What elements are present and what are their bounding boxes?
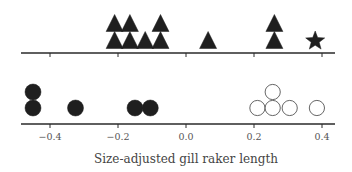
top-panel <box>21 15 335 58</box>
open-circle-marker <box>265 84 280 99</box>
triangle-marker <box>152 32 169 49</box>
x-tick-label: 0.4 <box>314 131 329 142</box>
filled-circle-marker <box>25 84 41 100</box>
triangle-marker <box>121 32 138 49</box>
x-axis-tick-labels: −0.4−0.20.00.20.4 <box>38 131 329 142</box>
top-panel-markers <box>106 15 325 50</box>
filled-circle-marker <box>68 100 84 116</box>
filled-circle-marker <box>142 100 158 116</box>
triangle-marker <box>106 15 123 32</box>
x-tick-label: 0.0 <box>178 131 193 142</box>
star-marker <box>306 31 325 49</box>
open-circle-marker <box>265 100 280 115</box>
triangle-marker <box>106 32 123 49</box>
open-circle-marker <box>282 100 297 115</box>
open-circle-marker <box>309 100 324 115</box>
triangle-marker <box>152 15 169 32</box>
x-tick-label: −0.4 <box>38 131 61 142</box>
x-tick-label: −0.2 <box>106 131 129 142</box>
triangle-marker <box>266 32 283 49</box>
triangle-marker <box>121 15 138 32</box>
dot-plot-chart: −0.4−0.20.00.20.4 Size-adjusted gill rak… <box>0 0 352 172</box>
triangle-marker <box>137 32 154 49</box>
triangle-marker <box>266 15 283 32</box>
x-tick-label: 0.2 <box>246 131 261 142</box>
filled-circle-marker <box>25 100 41 116</box>
bottom-panel-markers <box>25 84 325 116</box>
x-axis-title: Size-adjusted gill raker length <box>94 152 278 166</box>
triangle-marker <box>200 32 217 49</box>
open-circle-marker <box>250 100 265 115</box>
bottom-panel: −0.4−0.20.00.20.4 <box>21 84 335 142</box>
filled-circle-marker <box>127 100 143 116</box>
